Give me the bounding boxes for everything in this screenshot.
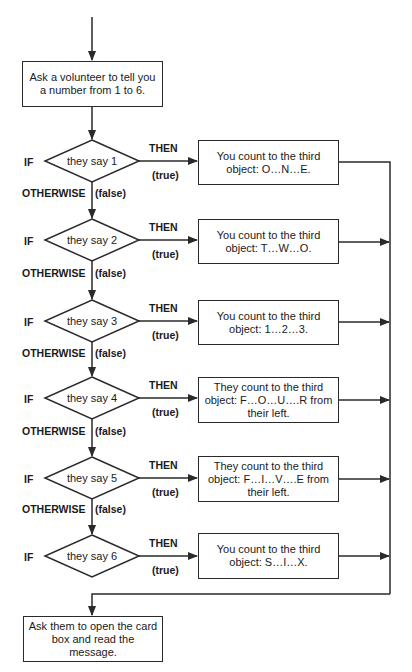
then-label-4: THEN bbox=[149, 379, 178, 391]
decision-2-condition: they say 2 bbox=[46, 234, 138, 247]
otherwise-label-2: OTHERWISE bbox=[22, 267, 85, 279]
true-label-4: (true) bbox=[152, 406, 179, 418]
if-label-3: IF bbox=[24, 316, 33, 328]
start-box: Ask a volunteer to tell you a number fro… bbox=[22, 61, 163, 107]
flowchart: Ask a volunteer to tell you a number fro… bbox=[0, 0, 412, 672]
action-box-5: They count to the third object: F…I…V….E… bbox=[198, 456, 339, 502]
start-box-text: Ask a volunteer to tell you a number fro… bbox=[27, 71, 158, 97]
end-box-text: Ask them to open the card box and read t… bbox=[28, 620, 158, 659]
true-label-3: (true) bbox=[152, 329, 179, 341]
action-3-text: You count to the third object: 1…2…3. bbox=[203, 310, 334, 336]
action-box-2: You count to the third object: T…W…O. bbox=[198, 219, 339, 264]
true-label-5: (true) bbox=[152, 486, 179, 498]
decision-3-condition: they say 3 bbox=[46, 315, 138, 328]
false-label-2: (false) bbox=[95, 267, 126, 279]
decision-4-condition: they say 4 bbox=[46, 392, 138, 405]
otherwise-label-1: OTHERWISE bbox=[22, 187, 85, 199]
then-label-2: THEN bbox=[149, 221, 178, 233]
decision-1-condition: they say 1 bbox=[46, 155, 138, 168]
if-label-4: IF bbox=[24, 393, 33, 405]
false-label-5: (false) bbox=[95, 503, 126, 515]
false-label-1: (false) bbox=[95, 187, 126, 199]
true-label-6: (true) bbox=[152, 564, 179, 576]
then-label-1: THEN bbox=[149, 142, 178, 154]
true-label-2: (true) bbox=[152, 248, 179, 260]
if-label-6: IF bbox=[24, 551, 33, 563]
action-2-text: You count to the third object: T…W…O. bbox=[203, 229, 334, 255]
action-4-text: They count to the third object: F…O…U….R… bbox=[203, 381, 334, 420]
then-label-3: THEN bbox=[149, 302, 178, 314]
action-box-6: You count to the third object: S…I…X. bbox=[198, 533, 339, 579]
otherwise-label-5: OTHERWISE bbox=[22, 503, 85, 515]
false-label-4: (false) bbox=[95, 425, 126, 437]
action-1-text: You count to the third object: O…N…E. bbox=[203, 150, 334, 176]
decision-5-condition: they say 5 bbox=[46, 472, 138, 485]
true-label-1: (true) bbox=[152, 169, 179, 181]
otherwise-label-3: OTHERWISE bbox=[22, 347, 85, 359]
if-label-5: IF bbox=[24, 473, 33, 485]
end-box: Ask them to open the card box and read t… bbox=[23, 616, 163, 662]
otherwise-label-4: OTHERWISE bbox=[22, 425, 85, 437]
false-label-3: (false) bbox=[95, 347, 126, 359]
if-label-2: IF bbox=[24, 235, 33, 247]
decision-6-condition: they say 6 bbox=[46, 550, 138, 563]
then-label-5: THEN bbox=[149, 459, 178, 471]
if-label-1: IF bbox=[24, 156, 33, 168]
action-box-1: You count to the third object: O…N…E. bbox=[198, 140, 339, 185]
action-6-text: You count to the third object: S…I…X. bbox=[203, 543, 334, 569]
action-box-4: They count to the third object: F…O…U….R… bbox=[198, 377, 339, 423]
then-label-6: THEN bbox=[149, 537, 178, 549]
action-5-text: They count to the third object: F…I…V….E… bbox=[203, 460, 334, 499]
action-box-3: You count to the third object: 1…2…3. bbox=[198, 300, 339, 345]
